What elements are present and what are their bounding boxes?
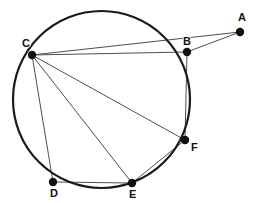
segments-group [32,32,240,183]
point-C[interactable] [28,51,36,59]
point-label-C: C [22,37,30,49]
point-E[interactable] [128,179,136,187]
geometry-figure: ABCDEF [0,0,257,203]
point-label-D: D [50,187,58,199]
segment-CE [32,55,132,183]
point-A[interactable] [236,28,244,36]
point-label-F: F [191,141,198,153]
segment-DE [53,182,132,183]
point-D[interactable] [49,178,57,186]
segment-CD [32,55,53,182]
point-F[interactable] [181,136,189,144]
diagram-canvas: ABCDEF [0,0,257,203]
labels-group: ABCDEF [22,11,246,200]
point-B[interactable] [183,48,191,56]
point-label-E: E [129,188,136,200]
point-label-B: B [183,35,191,47]
segment-CF [32,55,185,140]
point-label-A: A [238,11,246,23]
